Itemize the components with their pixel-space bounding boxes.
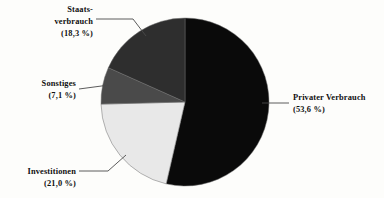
pie-label-staatsverbrauch-percent: (18,3 %): [61, 29, 93, 38]
pie-label-investitionen-name: Investitionen: [28, 167, 77, 176]
pie-label-investitionen-percent: (21,0 %): [44, 179, 76, 188]
pie-label-privater-verbrauch-name: Privater Verbrauch: [293, 93, 366, 102]
pie-label-privater-verbrauch-percent: (53,6 %): [293, 105, 325, 114]
pie-label-staatsverbrauch-line1: Staats-: [67, 5, 93, 14]
pie-label-staatsverbrauch-line2: verbrauch: [54, 17, 93, 26]
pie-label-sonstiges-name: Sonstiges: [42, 79, 77, 88]
pie-chart-figure: Staats- verbrauch (18,3 %) Sonstiges (7,…: [0, 0, 384, 198]
pie-label-sonstiges-percent: (7,1 %): [48, 91, 76, 100]
pie-chart-canvas: Staats- verbrauch (18,3 %) Sonstiges (7,…: [0, 0, 384, 198]
